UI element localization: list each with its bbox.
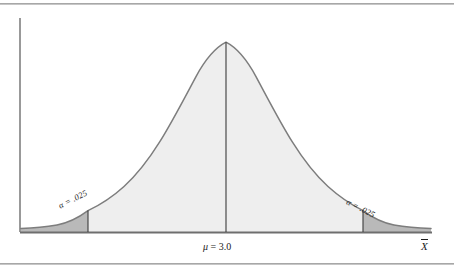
mu-value: 3.0 xyxy=(219,241,232,252)
xbar-symbol: X xyxy=(421,240,428,252)
bottom-divider-rule xyxy=(0,263,454,265)
x-axis-label: X xyxy=(421,240,428,252)
top-divider-rule xyxy=(0,3,454,5)
mean-axis-label: μ = 3.0 xyxy=(203,241,231,252)
normal-distribution-figure: α = .025 α = .025 μ = 3.0 X xyxy=(0,0,454,273)
left-tail-region-fill xyxy=(21,211,88,232)
mu-equals: = xyxy=(208,241,219,252)
distribution-plot xyxy=(0,0,454,273)
